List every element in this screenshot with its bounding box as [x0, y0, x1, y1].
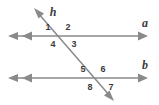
line-b-left-arrowhead-inner: [22, 74, 32, 83]
angle-label-1: 1: [45, 22, 50, 32]
line-b-right-arrowhead: [138, 74, 148, 83]
angle-label-3: 3: [71, 39, 76, 49]
line-a-right-arrowhead: [138, 32, 148, 41]
line-a-left-arrowhead-outer: [8, 32, 18, 40]
parallel-lines-transversal-diagram: 1 2 4 3 5 6 8 7 a b h: [0, 0, 159, 105]
line-a-label: a: [142, 16, 148, 30]
angle-label-2: 2: [65, 22, 70, 32]
line-b-group: [8, 74, 148, 83]
angle-label-4: 4: [50, 39, 55, 49]
angle-label-6: 6: [100, 64, 105, 74]
line-a-group: [8, 32, 148, 41]
angle-label-7: 7: [108, 82, 113, 92]
line-b-left-arrowhead-outer: [8, 74, 18, 82]
line-h-label: h: [50, 5, 57, 19]
line-b-label: b: [142, 58, 148, 72]
geometry-figure: 1 2 4 3 5 6 8 7 a b h: [0, 0, 159, 105]
line-h-top-arrowhead: [34, 8, 44, 19]
line-a-left-arrowhead-inner: [22, 32, 32, 41]
angle-label-8: 8: [87, 82, 92, 92]
angle-label-5: 5: [80, 64, 85, 74]
